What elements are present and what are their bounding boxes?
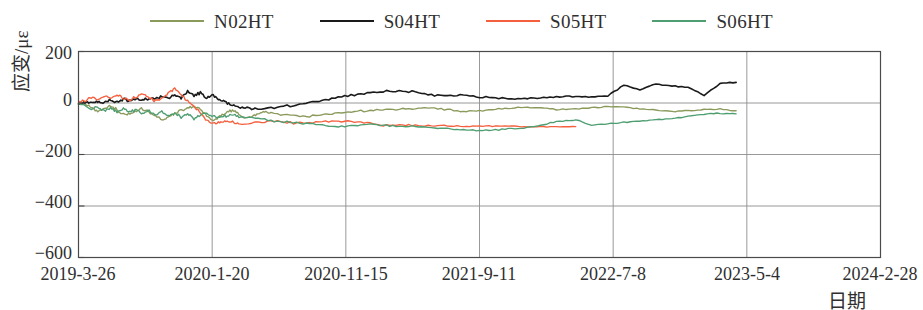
x-axis-title: 日期	[828, 286, 866, 310]
x-tick-6: 2024-2-28	[843, 264, 918, 285]
x-tick-5: 2023-5-4	[714, 264, 780, 285]
x-tick-4: 2022-7-8	[580, 264, 646, 285]
x-tick-3: 2021-9-11	[442, 264, 516, 285]
strain-time-series-chart: N02HT S04HT S05HT S06HT 应变/με 200 0 −200…	[0, 0, 923, 310]
x-axis-tick-labels: 2019-3-26 2020-1-20 2020-11-15 2021-9-11…	[0, 0, 923, 310]
x-tick-0: 2019-3-26	[41, 264, 116, 285]
x-tick-1: 2020-1-20	[175, 264, 250, 285]
x-tick-2: 2020-11-15	[304, 264, 387, 285]
